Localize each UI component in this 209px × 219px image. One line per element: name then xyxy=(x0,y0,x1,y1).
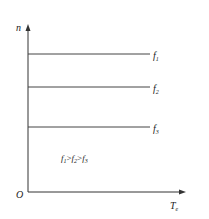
y-axis-label: n xyxy=(16,22,21,33)
label-f2: f2 xyxy=(153,83,159,95)
relation-annotation: f1>f2>f3 xyxy=(61,153,88,164)
label-f3: f3 xyxy=(153,123,159,135)
y-axis-arrow-icon xyxy=(26,24,31,31)
origin-label: O xyxy=(16,189,23,200)
label-f1: f1 xyxy=(153,50,159,62)
x-axis-arrow-icon xyxy=(179,190,186,195)
x-axis-label: Te xyxy=(170,200,179,212)
diagram-canvas: n O Te f1 f2 f3 f1>f2>f3 xyxy=(0,0,209,219)
